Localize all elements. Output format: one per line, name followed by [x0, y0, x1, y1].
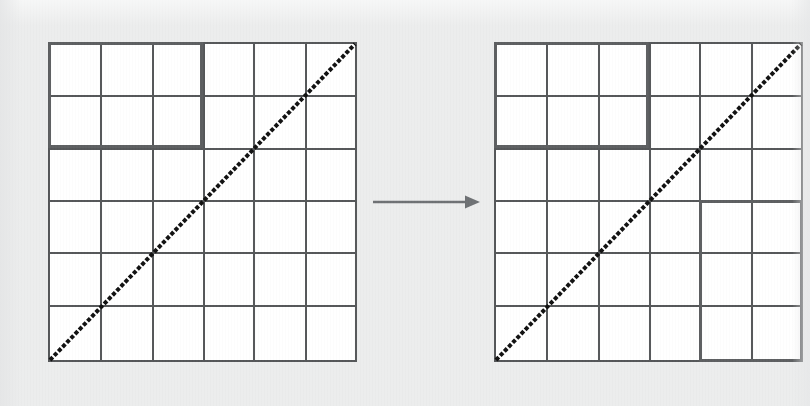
transformation-arrow: [373, 191, 485, 217]
highlighted-block-top-left: [494, 42, 649, 148]
grid-line-vertical: [305, 42, 307, 362]
arrow-right-icon: [373, 191, 485, 213]
grid-frame-line-vertical: [355, 42, 357, 362]
highlighted-block-bottom-right: [699, 200, 803, 362]
ghost-showthrough-text: [366, 34, 508, 120]
after-matrix: [494, 42, 803, 362]
before-matrix: [48, 42, 357, 362]
figure-canvas: [0, 0, 810, 406]
highlighted-block-top-left: [48, 42, 203, 148]
grid-line-vertical: [253, 42, 255, 362]
grid-line-vertical: [203, 42, 205, 362]
grid-line-vertical: [649, 42, 651, 362]
